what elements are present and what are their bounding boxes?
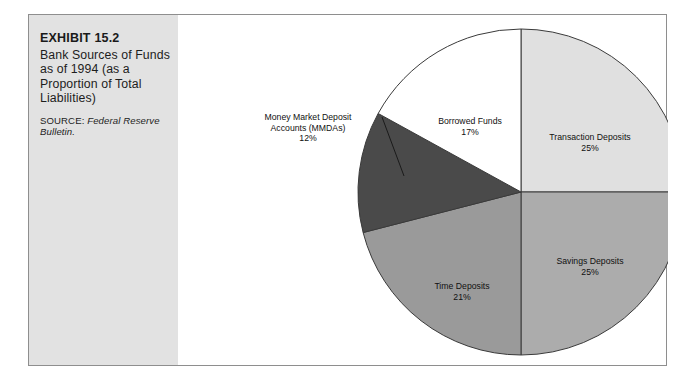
exhibit-frame: EXHIBIT 15.2 Bank Sources of Funds as of… [28, 14, 667, 366]
source-label: SOURCE: [40, 115, 84, 126]
exhibit-source: SOURCE: Federal Reserve Bulletin. [40, 115, 172, 138]
caption-block: EXHIBIT 15.2 Bank Sources of Funds as of… [40, 31, 172, 137]
pie-slices [358, 29, 668, 355]
exhibit-title: Bank Sources of Funds as of 1994 (as a P… [40, 48, 172, 106]
caption-panel: EXHIBIT 15.2 Bank Sources of Funds as of… [29, 15, 178, 365]
pie-slice-transaction-deposits[interactable] [521, 29, 668, 192]
pie-chart: Transaction Deposits25%Savings Deposits2… [178, 15, 668, 365]
slice-label-money-market-deposit-accounts-mmdas: Money Market DepositAccounts (MMDAs)12% [265, 112, 352, 143]
exhibit-number: EXHIBIT 15.2 [40, 31, 172, 45]
chart-area: Transaction Deposits25%Savings Deposits2… [178, 15, 666, 365]
